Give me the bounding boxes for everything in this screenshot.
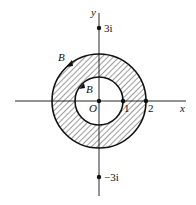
outer-curve-label: B [58,51,65,63]
annulus-diagram: y x O 1 2 3i −3i B B [0,0,196,205]
origin-point [97,99,101,103]
point-plus-3i [97,26,101,30]
plus-3i-label: 3i [104,22,113,34]
y-axis-label: y [90,6,96,18]
point-two-label: 2 [148,102,154,114]
inner-curve-label: B [86,83,93,95]
minus-3i-label: −3i [104,171,119,183]
point-one-label: 1 [124,102,130,114]
origin-label: O [89,102,97,114]
x-axis-label: x [179,102,185,114]
point-minus-3i [97,175,101,179]
